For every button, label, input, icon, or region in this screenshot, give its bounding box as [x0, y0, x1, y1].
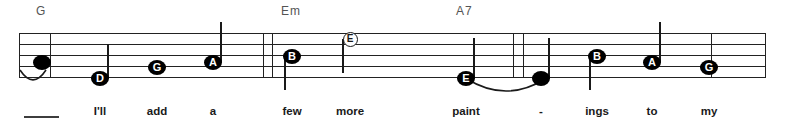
staff-line-2 [19, 44, 766, 45]
staff-line-1 [19, 33, 766, 34]
note-stem-4 [220, 22, 222, 62]
barline-8 [765, 33, 766, 78]
lyric-syllable-11[interactable]: my [701, 104, 718, 118]
notehead-2-d[interactable]: D [91, 71, 109, 86]
lyric-syllable-6[interactable]: more [336, 104, 364, 118]
barline-4 [272, 33, 273, 78]
lyric-syllable-2[interactable]: I'll [94, 104, 106, 118]
note-stem-2 [107, 44, 109, 78]
lyric-syllable-4[interactable]: a [210, 104, 216, 118]
barline-1 [19, 33, 20, 78]
notehead-10-a[interactable]: A [643, 55, 661, 70]
note-stem-7 [473, 38, 475, 78]
barline-3 [263, 33, 264, 78]
notehead-5-b[interactable]: B [283, 49, 301, 64]
lyric-syllable-9[interactable]: ings [585, 104, 609, 118]
chord-symbol-g[interactable]: G [36, 4, 46, 18]
barline-5 [513, 33, 514, 78]
note-stem-10 [659, 22, 661, 62]
chord-symbol-a7[interactable]: A7 [456, 4, 473, 18]
tie-pickup [19, 68, 47, 83]
notehead-1[interactable] [33, 55, 51, 70]
notehead-9-b[interactable]: B [588, 49, 606, 64]
notehead-6-e[interactable]: E [343, 32, 358, 47]
lyric-syllable-10[interactable]: to [647, 104, 658, 118]
music-staff-sheet: GEmA7 DGABEEBAG I'lladdafewmorepaint-ing… [0, 0, 802, 130]
lyric-extender-line [24, 116, 59, 118]
notehead-3-g[interactable]: G [148, 60, 166, 75]
notehead-8[interactable] [532, 71, 550, 86]
note-stem-8 [548, 38, 550, 78]
lyric-syllable-3[interactable]: add [147, 104, 167, 118]
lyric-syllable-5[interactable]: few [282, 104, 301, 118]
notehead-11-g[interactable]: G [700, 60, 718, 75]
notehead-4-a[interactable]: A [204, 55, 222, 70]
barline-6 [523, 33, 524, 78]
barline-2 [50, 33, 51, 78]
chord-symbol-em[interactable]: Em [281, 4, 301, 18]
notehead-7-e[interactable]: E [457, 71, 475, 86]
lyric-syllable-7[interactable]: paint [452, 104, 479, 118]
lyric-syllable-8[interactable]: - [539, 104, 543, 118]
staff-line-5 [19, 77, 766, 78]
note-stem-6 [342, 39, 344, 73]
